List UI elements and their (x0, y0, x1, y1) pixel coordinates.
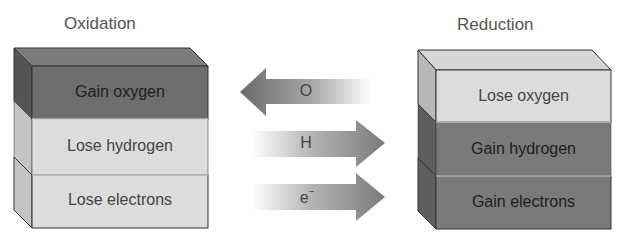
reduction-layer-gain-electrons: Gain electrons (436, 193, 611, 211)
oxidation-layer-lose-electrons: Lose electrons (32, 191, 208, 209)
arrow-label-oxygen: O (296, 82, 316, 100)
oxidation-layer-lose-hydrogen: Lose hydrogen (32, 137, 208, 155)
reduction-layer-lose-oxygen: Lose oxygen (436, 87, 611, 105)
electron-symbol: e (300, 189, 309, 206)
oxidation-title: Oxidation (64, 14, 136, 34)
arrow-right-hydrogen (252, 120, 385, 167)
arrow-label-electrons: e− (292, 188, 322, 207)
reduction-layer-gain-hydrogen: Gain hydrogen (436, 140, 611, 158)
arrow-label-hydrogen: H (296, 134, 316, 152)
oxidation-layer-gain-oxygen: Gain oxygen (32, 83, 208, 101)
electron-charge: − (309, 186, 315, 197)
reduction-title: Reduction (457, 15, 534, 35)
